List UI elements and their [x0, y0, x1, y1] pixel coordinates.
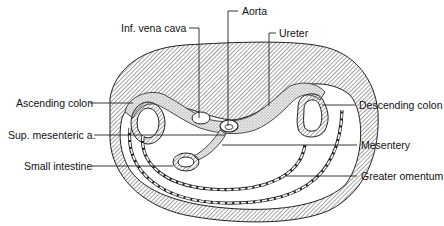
- label-inf-vena-cava: Inf. vena cava: [121, 22, 186, 34]
- label-ureter: Ureter: [279, 27, 308, 39]
- label-mesentery: Mesentery: [361, 139, 410, 151]
- label-sup-mesenteric-a: Sup. mesenteric a.: [8, 129, 96, 141]
- label-greater-omentum: Greater omentum: [361, 170, 443, 182]
- label-ascending-colon: Ascending colon: [16, 97, 93, 109]
- label-aorta: Aorta: [242, 5, 267, 17]
- label-descending-colon: Descending colon: [359, 99, 442, 111]
- inf-vena-cava-shape: [192, 112, 210, 124]
- label-small-intestine: Small intestine: [24, 160, 92, 172]
- aorta-shape: [220, 120, 238, 132]
- diagram-canvas: [0, 0, 444, 226]
- small-intestine: [173, 153, 199, 171]
- descending-colon: [297, 94, 328, 137]
- ascending-colon: [131, 102, 165, 144]
- cross-section-diagram: Aorta Inf. vena cava Ureter Ascending co…: [0, 0, 444, 226]
